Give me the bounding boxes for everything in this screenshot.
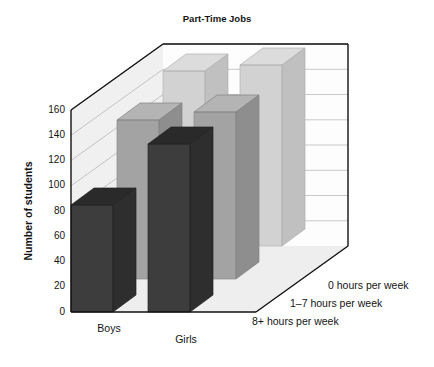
chart-title: Part-Time Jobs <box>183 13 251 24</box>
y-tick-120: 120 <box>48 154 65 165</box>
y-tick-60: 60 <box>54 230 66 241</box>
y-tick-140: 140 <box>48 129 65 140</box>
x-axis-label-boys: Boys <box>97 322 120 334</box>
x-axis-label-girls: Girls <box>175 333 197 345</box>
y-tick-0: 0 <box>59 306 65 317</box>
y-tick-40: 40 <box>54 255 66 266</box>
y-tick-80: 80 <box>54 205 66 216</box>
bar-girls-8-plus-hours <box>148 127 213 312</box>
y-axis-title: Number of students <box>22 161 34 260</box>
depth-label-1-7-hours: 1–7 hours per week <box>290 297 383 309</box>
depth-label-0-hours: 0 hours per week <box>328 279 409 291</box>
y-tick-100: 100 <box>48 179 65 190</box>
y-tick-20: 20 <box>54 280 66 291</box>
chart-container: Part-Time Jobs Number of students <box>0 0 434 367</box>
depth-label-8-plus-hours: 8+ hours per week <box>252 315 339 327</box>
part-time-jobs-3d-bar-chart: Part-Time Jobs Number of students <box>0 0 434 367</box>
bar-boys-8-plus-hours <box>71 188 136 312</box>
y-axis-tick-labels: 0 20 40 60 80 100 120 140 160 <box>48 104 65 317</box>
y-tick-160: 160 <box>48 104 65 115</box>
